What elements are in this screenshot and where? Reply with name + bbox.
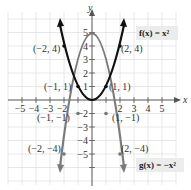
svg-text:2: 2 (83, 68, 88, 79)
svg-text:3: 3 (83, 54, 88, 65)
svg-text:(−1, −1): (−1, −1) (37, 112, 70, 124)
svg-text:4: 4 (146, 103, 151, 114)
parabola-chart: x y −5 −4 −3 −2 2 3 4 5 5 4 3 2 1 −2 −3 … (0, 0, 191, 190)
svg-text:−4: −4 (77, 135, 88, 146)
y-axis-label: y (87, 2, 93, 13)
x-axis-label: x (182, 94, 188, 105)
svg-text:−3: −3 (77, 122, 88, 133)
svg-text:(2, 4): (2, 4) (121, 43, 143, 55)
g-label: g(x) = −x² (139, 160, 176, 170)
g-arrow-left-icon (57, 164, 64, 173)
svg-text:(−1, 1): (−1, 1) (44, 81, 71, 93)
svg-text:1: 1 (83, 81, 88, 92)
x-axis-arrow-icon (174, 97, 181, 103)
svg-text:(−2, 4): (−2, 4) (33, 43, 60, 55)
svg-text:(1, 1): (1, 1) (109, 81, 131, 93)
svg-text:−5: −5 (77, 149, 88, 160)
f-label: f(x) = x² (139, 28, 170, 38)
svg-text:(1, −1): (1, −1) (112, 112, 139, 124)
svg-text:−5: −5 (15, 103, 26, 114)
g-arrow-right-icon (120, 164, 127, 173)
svg-text:(−2, −4): (−2, −4) (28, 143, 61, 155)
svg-text:5: 5 (160, 103, 165, 114)
svg-text:(2, −4): (2, −4) (121, 143, 148, 155)
